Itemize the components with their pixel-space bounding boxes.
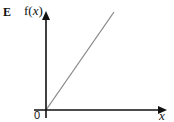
x-axis-label: x	[159, 109, 165, 122]
y-axis-arrow-icon	[42, 11, 50, 20]
function-line	[46, 12, 114, 110]
origin-label: 0	[34, 110, 40, 121]
graph	[0, 0, 174, 122]
